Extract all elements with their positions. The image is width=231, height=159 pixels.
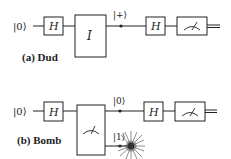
measurement-gate	[175, 102, 205, 121]
one-state-label: |1⟩	[113, 132, 125, 143]
hadamard-label: H	[48, 106, 59, 119]
state-dot	[119, 24, 122, 27]
panel-a-dud	[33, 15, 220, 57]
hadamard-label: H	[150, 20, 161, 33]
caption-dud: (a) Dud	[22, 51, 58, 64]
bomb-measurement-gate	[77, 105, 105, 155]
zero-state-label: |0⟩	[113, 96, 125, 107]
bomb-tester-diagram: |0⟩ H I |+⟩ H (a) Dud	[0, 0, 231, 159]
state-dot	[118, 109, 121, 112]
input-state-label: |0⟩	[13, 21, 27, 33]
panel-b-bomb	[33, 102, 217, 159]
measurement-gate	[177, 17, 207, 35]
hadamard-label: H	[148, 106, 159, 119]
identity-label: I	[86, 29, 92, 43]
caption-bomb: (b) Bomb	[17, 134, 61, 147]
plus-state-label: |+⟩	[113, 10, 127, 21]
input-state-label: |0⟩	[13, 106, 27, 118]
hadamard-label: H	[48, 20, 59, 33]
